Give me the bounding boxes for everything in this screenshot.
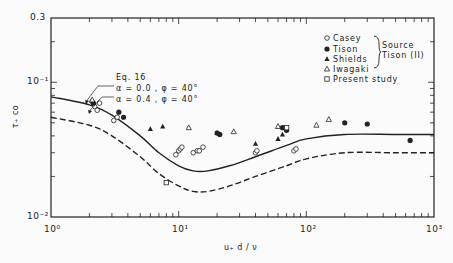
legend-item-iwagaki: Iwagaki (333, 65, 369, 74)
legend-marker-iwagaki (324, 66, 329, 71)
data-point-iwagaki (186, 125, 191, 130)
data-point-shields (275, 136, 280, 141)
data-point-shields (280, 132, 285, 137)
axes-frame (51, 18, 434, 217)
data-point-present-study (284, 126, 288, 130)
annotation-alpha-0: α = 0.0 , φ = 40° (116, 84, 198, 93)
legend-source-label: Source (382, 41, 414, 50)
data-point-casey (197, 149, 202, 154)
legend-source-ref: Tison (II) (382, 51, 425, 60)
legend-item-shields: Shields (333, 55, 367, 64)
legend-marker-casey (325, 36, 330, 41)
plot-area (0, 0, 453, 263)
data-point-casey (255, 149, 260, 154)
data-point-shields (160, 124, 165, 129)
x-tick-label-1e2: 10² (300, 224, 317, 234)
y-tick-label-1e-2: 10⁻² (27, 211, 49, 221)
legend-bracket (374, 36, 381, 68)
legend-marker-present-study (325, 77, 329, 81)
data-point-tison (342, 120, 347, 125)
annotation-alpha-0.4: α = 0.4 , φ = 40° (116, 95, 198, 104)
data-point-tison (408, 138, 413, 143)
data-point-shields (148, 126, 153, 131)
data-point-tison (121, 115, 126, 120)
data-point-casey (294, 147, 299, 152)
data-point-iwagaki (326, 117, 331, 122)
curve-alpha-0 (51, 97, 434, 172)
data-point-shields (253, 141, 258, 146)
curve-alpha-0.4 (51, 117, 434, 192)
y-axis-label: τ₊ co (11, 105, 20, 128)
y-tick-label-0.3: 0.3 (30, 12, 46, 22)
data-point-casey (201, 145, 206, 150)
data-point-casey (115, 115, 120, 120)
x-axis-label: u₊ d / ν (224, 243, 257, 252)
legend-item-present-study: Present study (333, 75, 398, 84)
x-tick-label-1e3: 10³ (426, 224, 443, 234)
legend-marker-shields (324, 56, 329, 61)
data-point-present-study (164, 180, 168, 184)
data-point-iwagaki (231, 129, 236, 134)
x-tick-label-1e1: 10¹ (172, 224, 189, 234)
legend-item-tison: Tison (333, 45, 358, 54)
data-point-casey (95, 108, 100, 113)
data-point-iwagaki (90, 97, 95, 102)
legend-item-casey: Casey (333, 34, 361, 43)
legend-marker-tison (324, 46, 329, 51)
data-point-iwagaki (275, 124, 280, 129)
data-point-casey (180, 145, 185, 150)
y-tick-label-1e-1: 10⁻¹ (27, 76, 49, 86)
x-tick-label-1e0: 10⁰ (44, 224, 61, 234)
annotation-eq16: Eq. 16 (116, 73, 146, 82)
data-point-tison (365, 121, 370, 126)
data-point-tison (116, 110, 121, 115)
figure: 0.3 10⁻¹ 10⁻² 10⁰ 10¹ 10² 10³ u₊ d / ν τ… (0, 0, 453, 263)
data-point-iwagaki (314, 122, 319, 127)
arrowhead-alpha-0.4 (88, 110, 92, 114)
